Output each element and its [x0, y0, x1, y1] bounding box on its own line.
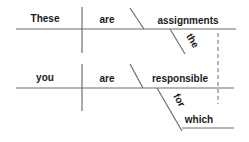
word-assignments: assignments: [157, 15, 219, 26]
word-you: you: [36, 72, 54, 83]
word-are-main: are: [99, 14, 114, 25]
the-modifier-line: [170, 29, 185, 54]
word-for: for: [171, 92, 187, 109]
sentence-diagram: These are assignments the you are respon…: [0, 0, 249, 142]
diagram-svg: These are assignments the you are respon…: [0, 0, 249, 142]
relative-clause: you are responsible for which: [16, 64, 234, 131]
word-are-relative: are: [99, 73, 114, 84]
main-complement-slash: [130, 8, 144, 29]
word-the: the: [184, 31, 201, 50]
relative-complement-slash: [130, 64, 143, 88]
word-responsible: responsible: [152, 73, 209, 84]
word-these: These: [31, 13, 60, 24]
main-clause: These are assignments the: [16, 7, 236, 54]
word-which: which: [184, 114, 213, 125]
